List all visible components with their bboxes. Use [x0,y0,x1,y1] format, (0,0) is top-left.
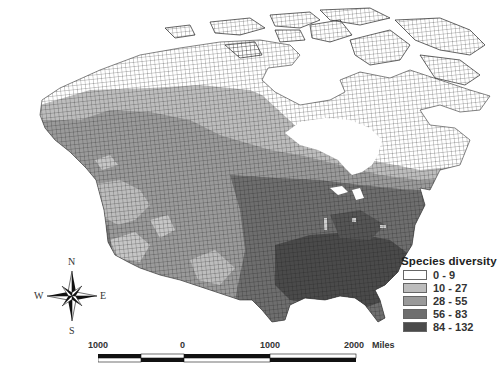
legend-title: Species diversity [401,255,502,268]
scale-label-1000-left: 1000 [88,340,108,350]
compass-north: N [68,256,75,267]
legend-swatch [403,283,427,293]
legend-item: 84 - 132 [403,320,502,333]
compass-west: W [34,290,43,301]
legend-label: 84 - 132 [433,321,473,333]
legend-label: 56 - 83 [433,308,467,320]
compass-south: S [69,325,75,336]
legend-swatch [403,322,427,332]
scale-label-1000: 1000 [260,340,280,350]
scale-bar-graphic [98,353,358,363]
scale-label-0: 0 [180,340,185,350]
legend-swatch [403,309,427,319]
compass-rose: N S E W [32,256,112,336]
legend-label: 10 - 27 [433,282,467,294]
legend-item: 28 - 55 [403,294,502,307]
legend-label: 0 - 9 [433,269,455,281]
legend-swatch [403,270,427,280]
compass-east: E [100,290,106,301]
scale-units: Miles [372,340,395,350]
scale-label-2000: 2000 [344,340,364,350]
legend-label: 28 - 55 [433,295,467,307]
legend: Species diversity 0 - 9 10 - 27 28 - 55 … [399,255,502,333]
legend-item: 56 - 83 [403,307,502,320]
scale-bar: 1000 0 1000 2000 Miles [80,340,480,370]
legend-swatch [403,296,427,306]
legend-item: 10 - 27 [403,281,502,294]
legend-item: 0 - 9 [403,268,502,281]
